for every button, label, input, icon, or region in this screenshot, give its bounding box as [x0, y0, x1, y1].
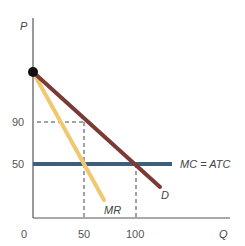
intercept-marker [28, 67, 38, 77]
mr-label: MR [104, 204, 121, 216]
y-tick-90: 90 [12, 116, 24, 128]
y-tick-50: 50 [12, 158, 24, 170]
x-tick-100: 100 [126, 228, 144, 240]
demand-line [33, 72, 160, 187]
mr-line [33, 72, 104, 200]
x-tick-50: 50 [78, 228, 90, 240]
x-axis-label: Q [219, 228, 228, 240]
y-axis-label: P [20, 20, 28, 32]
demand-label: D [161, 189, 169, 201]
x-tick-0: 0 [21, 228, 27, 240]
mc-atc-label: MC = ATC [180, 158, 230, 170]
monopoly-chart: P Q 0 50 100 90 50 D MR MC = ATC [0, 0, 245, 246]
